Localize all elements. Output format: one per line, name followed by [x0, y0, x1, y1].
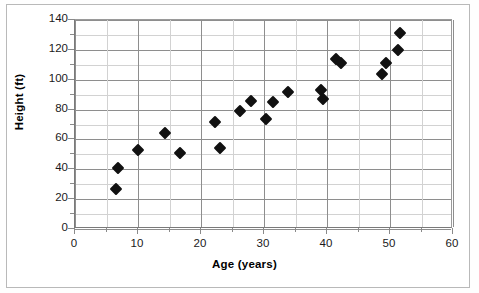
gridline-vertical [296, 20, 297, 227]
y-tick-label: 40 [38, 162, 68, 174]
x-axis-tick-labels: 0102030405060 [0, 233, 479, 253]
data-point [282, 85, 295, 98]
data-point [174, 146, 187, 159]
y-tick-label: 60 [38, 132, 68, 144]
data-point [214, 142, 227, 155]
x-tick-label: 50 [369, 237, 409, 249]
x-axis-title: Age (years) [0, 258, 479, 270]
gridline-vertical [422, 20, 423, 227]
x-axis-tick [421, 228, 422, 232]
data-point [335, 57, 348, 70]
gridline-horizontal [75, 199, 451, 200]
gridline-vertical [107, 20, 108, 227]
x-axis-tick [169, 228, 170, 232]
gridline-vertical [138, 20, 139, 227]
x-tick-label: 20 [180, 237, 220, 249]
gridline-horizontal [75, 95, 451, 96]
gridline-vertical [75, 20, 76, 227]
x-axis-tick [358, 228, 359, 232]
chart-figure: Height (ft) 020406080100120140 010203040… [0, 0, 479, 293]
gridline-horizontal [75, 20, 451, 21]
x-axis-title-text: Age (years) [212, 258, 277, 270]
gridline-horizontal [75, 65, 451, 66]
plot-area [74, 19, 452, 228]
x-tick-label: 60 [432, 237, 472, 249]
gridline-horizontal [75, 110, 451, 111]
gridline-horizontal [75, 139, 451, 140]
y-tick-label: 0 [38, 222, 68, 234]
gridline-vertical [453, 20, 454, 227]
gridline-horizontal [75, 169, 451, 170]
x-tick-label: 30 [243, 237, 283, 249]
data-point [260, 112, 273, 125]
gridline-horizontal [75, 154, 451, 155]
gridline-vertical [390, 20, 391, 227]
y-tick-label: 100 [38, 73, 68, 85]
x-axis-tick [232, 228, 233, 232]
gridline-horizontal [75, 35, 451, 36]
x-tick-label: 0 [54, 237, 94, 249]
data-point [376, 67, 389, 80]
data-point [394, 27, 407, 40]
data-point [392, 43, 405, 56]
y-axis-title: Height (ft) [13, 47, 25, 157]
gridline-vertical [327, 20, 328, 227]
y-tick-label: 80 [38, 103, 68, 115]
gridline-horizontal [75, 214, 451, 215]
data-point [111, 161, 124, 174]
gridline-horizontal [75, 80, 451, 81]
gridline-vertical [233, 20, 234, 227]
y-tick-label: 120 [38, 43, 68, 55]
gridline-vertical [201, 20, 202, 227]
x-tick-label: 40 [306, 237, 346, 249]
x-axis-tick [295, 228, 296, 232]
gridline-vertical [170, 20, 171, 227]
gridline-vertical [359, 20, 360, 227]
gridline-horizontal [75, 184, 451, 185]
y-tick-label: 140 [38, 13, 68, 25]
data-point [245, 94, 258, 107]
data-point [267, 96, 280, 109]
y-tick-label: 20 [38, 192, 68, 204]
gridline-horizontal [75, 125, 451, 126]
data-point [234, 105, 247, 118]
x-tick-label: 10 [117, 237, 157, 249]
x-axis-tick [106, 228, 107, 232]
